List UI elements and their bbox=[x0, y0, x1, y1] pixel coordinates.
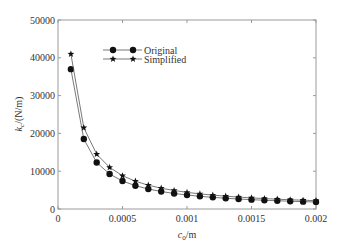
star-marker-icon bbox=[110, 55, 117, 62]
y-tick-label: 50000 bbox=[30, 15, 55, 26]
y-tick-label: 30000 bbox=[30, 90, 55, 101]
legend-label: Simplified bbox=[144, 54, 186, 65]
legend: OriginalSimplified bbox=[103, 45, 186, 65]
star-marker-icon bbox=[119, 172, 126, 179]
series-line bbox=[71, 69, 316, 202]
chart: 00.00050.0010.00150.002 0100002000030000… bbox=[0, 0, 344, 252]
y-tick-label: 40000 bbox=[30, 52, 55, 63]
circle-marker-icon bbox=[81, 136, 87, 142]
plot-area-border bbox=[58, 20, 316, 209]
series-original bbox=[68, 66, 319, 205]
x-tick-label: 0.0015 bbox=[238, 213, 266, 224]
circle-marker-icon bbox=[132, 182, 138, 188]
y-axis-title: kc/(N/m) bbox=[13, 97, 26, 132]
x-tick-label: 0.0005 bbox=[109, 213, 137, 224]
legend-item-simplified: Simplified bbox=[103, 54, 186, 65]
series-simplified bbox=[67, 50, 319, 203]
x-axis-ticks: 00.00050.0010.00150.002 bbox=[56, 20, 328, 224]
circle-marker-icon bbox=[130, 47, 136, 53]
x-tick-label: 0.001 bbox=[176, 213, 199, 224]
star-marker-icon bbox=[130, 55, 137, 62]
y-tick-label: 20000 bbox=[30, 128, 55, 139]
circle-marker-icon bbox=[145, 186, 151, 192]
circle-marker-icon bbox=[110, 47, 116, 53]
data-series bbox=[67, 50, 319, 205]
circle-marker-icon bbox=[106, 171, 112, 177]
circle-marker-icon bbox=[94, 159, 100, 165]
circle-marker-icon bbox=[119, 178, 125, 184]
x-tick-label: 0.002 bbox=[305, 213, 328, 224]
plot-frame bbox=[58, 20, 316, 209]
x-tick-label: 0 bbox=[56, 213, 61, 224]
x-axis-title: c0/m bbox=[178, 229, 197, 242]
series-line bbox=[71, 54, 316, 201]
y-tick-label: 10000 bbox=[30, 166, 55, 177]
y-tick-label: 0 bbox=[50, 204, 55, 215]
